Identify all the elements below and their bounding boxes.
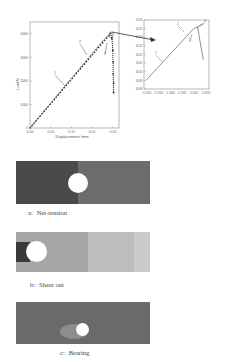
data-point bbox=[112, 61, 114, 63]
main-ylabel: Load/N bbox=[16, 78, 20, 90]
data-point bbox=[49, 104, 51, 106]
zoom-arrowhead bbox=[150, 37, 156, 42]
inset-annotation-leader bbox=[199, 23, 205, 27]
data-point bbox=[112, 49, 114, 51]
data-point bbox=[106, 37, 108, 39]
panel-bearing bbox=[16, 302, 150, 344]
main-chart: 0.000.050.100.150.2001000200030004000123… bbox=[0, 0, 226, 145]
panel-net-tension bbox=[16, 161, 150, 204]
data-point bbox=[74, 75, 76, 77]
caption-shear-out: b:Shear out bbox=[30, 281, 64, 288]
data-point bbox=[82, 66, 84, 68]
data-point bbox=[90, 56, 92, 58]
inset-x-tick-label: 0.1942 bbox=[190, 91, 199, 95]
inset-y-tick-label: 4012 bbox=[136, 53, 143, 57]
inset-annotation-label: 2 bbox=[177, 22, 179, 26]
data-point bbox=[100, 44, 102, 46]
inset-y-tick-label: 4016 bbox=[136, 18, 143, 22]
zoom-arrow bbox=[112, 32, 154, 40]
data-point bbox=[72, 78, 74, 80]
data-point bbox=[47, 106, 49, 108]
inset-annotation-label: 1 bbox=[155, 51, 157, 55]
shear-lighter-region bbox=[134, 232, 150, 272]
panel-shear-out bbox=[16, 232, 150, 272]
y-tick-label: 2000 bbox=[20, 79, 28, 83]
inset-y-tick-label: 4009 bbox=[136, 79, 143, 83]
data-point bbox=[110, 33, 112, 35]
data-point bbox=[102, 42, 104, 44]
inset-y-tick-label: 4010 bbox=[136, 70, 143, 74]
data-point bbox=[51, 101, 53, 103]
data-point bbox=[39, 115, 41, 117]
data-point bbox=[84, 63, 86, 65]
y-tick-label: 0 bbox=[26, 126, 28, 130]
net-tension-right-region bbox=[78, 161, 150, 204]
x-tick-label: 0.05 bbox=[47, 130, 54, 134]
data-point bbox=[57, 94, 59, 96]
bolt-hole bbox=[68, 173, 88, 193]
data-point bbox=[113, 92, 115, 94]
data-point bbox=[98, 47, 100, 49]
data-point bbox=[94, 52, 96, 54]
data-point bbox=[68, 82, 70, 84]
data-point bbox=[78, 70, 80, 72]
data-point bbox=[53, 99, 55, 101]
data-point bbox=[45, 108, 47, 110]
annotation-label: 3 bbox=[104, 51, 106, 55]
annotation-leader bbox=[55, 75, 65, 86]
inset-plot-frame bbox=[144, 20, 209, 89]
data-point bbox=[35, 120, 37, 122]
data-point bbox=[96, 49, 98, 51]
data-point bbox=[88, 59, 90, 61]
data-point bbox=[29, 127, 31, 129]
data-point bbox=[92, 54, 94, 56]
inset-annotation-leader bbox=[156, 55, 162, 62]
data-point bbox=[33, 122, 35, 124]
inset-annotation-label: 3 bbox=[189, 38, 191, 42]
data-point bbox=[41, 113, 43, 115]
inset-y-tick-label: 4011 bbox=[136, 61, 143, 65]
inset-drop-line bbox=[198, 27, 204, 60]
y-tick-label: 4000 bbox=[20, 32, 28, 36]
annotation-label: 2 bbox=[79, 40, 81, 44]
y-tick-label: 3000 bbox=[20, 56, 28, 60]
data-point bbox=[61, 89, 63, 91]
data-point bbox=[70, 80, 72, 82]
annotation-leader bbox=[80, 44, 87, 55]
data-point bbox=[43, 111, 45, 113]
caption-bearing: c:Bearing bbox=[60, 349, 89, 356]
bolt-hole bbox=[76, 323, 89, 336]
data-point bbox=[104, 40, 106, 42]
annotation-label: 1 bbox=[54, 71, 56, 75]
inset-y-tick-label: 4015 bbox=[136, 27, 143, 31]
inset-annotation-label: 4 bbox=[204, 19, 206, 23]
data-point bbox=[59, 92, 61, 94]
data-point bbox=[66, 85, 68, 87]
inset-x-tick-label: 0.1930 bbox=[155, 91, 164, 95]
main-xlabel: Displacement /mm bbox=[55, 134, 89, 139]
x-tick-label: 0.15 bbox=[89, 130, 96, 134]
data-point bbox=[76, 73, 78, 75]
inset-x-tick-label: 0.1940 bbox=[166, 91, 175, 95]
data-point bbox=[86, 61, 88, 63]
inset-y-tick-label: 4013 bbox=[136, 44, 143, 48]
inset-annotation-leader bbox=[178, 26, 184, 32]
inset-x-tick-label: 0.1920 bbox=[143, 91, 152, 95]
data-point bbox=[37, 118, 39, 120]
x-tick-label: 0.20 bbox=[109, 130, 116, 134]
x-tick-label: 0.00 bbox=[27, 130, 34, 134]
data-point bbox=[64, 87, 66, 89]
data-point bbox=[55, 96, 57, 98]
data-point bbox=[80, 68, 82, 70]
inset-x-tick-label: 0.1950 bbox=[202, 91, 211, 95]
caption-net-tension: a:Net-tension bbox=[28, 209, 67, 216]
data-point bbox=[112, 73, 114, 75]
data-point bbox=[31, 125, 33, 127]
inset-x-tick-label: 0.1941 bbox=[178, 91, 187, 95]
data-point bbox=[113, 82, 115, 84]
y-tick-label: 1000 bbox=[20, 103, 28, 107]
bolt-hole bbox=[26, 241, 47, 262]
